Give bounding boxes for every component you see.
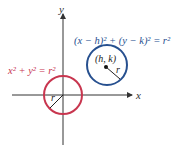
shifted-circle <box>87 45 127 85</box>
shifted-radius-label: r <box>116 64 120 75</box>
origin-circle-equation: x² + y² = r² <box>7 65 56 76</box>
y-axis-label: y <box>58 3 64 15</box>
circle-equations-diagram: x y r x² + y² = r² (h, k) r (x − h)² + (… <box>0 0 175 150</box>
shifted-circle-equation: (x − h)² + (y − k)² = r² <box>74 35 171 47</box>
center-label: (h, k) <box>95 53 117 65</box>
origin-radius-label: r <box>51 92 55 103</box>
x-axis-label: x <box>135 89 141 101</box>
